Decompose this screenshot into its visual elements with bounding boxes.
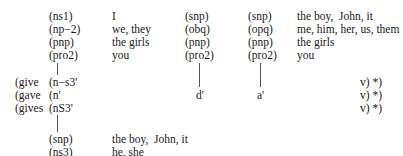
code-pnp: (pnp) [49,36,74,48]
right-code-snp: (snp) [248,10,272,22]
tail-gave: v) *) [360,89,382,101]
connector-line-d [199,63,200,87]
code-np-2: (np−2) [49,23,80,35]
right-words-opq: me, him, her, us, them [297,23,399,35]
connector-line-a [260,63,261,87]
mid-code-obq: (obq) [185,23,210,35]
code-pro2: (pro2) [49,49,78,61]
verb-code-gives: (nS3' [49,102,73,114]
label-a: a' [257,89,264,101]
verb-give: (give [15,76,39,88]
words-pro2: you [112,49,129,61]
b2-words-snp: the boy, John, it [112,133,188,145]
label-d: d' [196,89,204,101]
right-words-pnp: the girls [297,36,334,48]
verb-code-give: (n−s3' [49,76,77,88]
verb-code-gave: (n' [49,89,61,101]
tail-give: v) *) [360,76,382,88]
tail-gives: v) *) [360,102,382,114]
right-code-pnp: (pnp) [248,36,273,48]
connector-line-left [57,63,58,75]
words-ns1: I [112,10,116,22]
mid-code-snp: (snp) [185,10,209,22]
b2-code-snp: (snp) [49,133,73,145]
mid-code-pnp: (pnp) [185,36,210,48]
right-words-snp: the boy, John, it [297,10,373,22]
verb-gives: (gives [15,102,43,114]
mid-code-pro2: (pro2) [185,49,214,61]
right-code-pro2: (pro2) [248,49,277,61]
verb-gave: (gave [15,89,41,101]
right-code-opq: (opq) [248,23,273,35]
b2-code-ns3: (ns3) [49,146,73,156]
b2-words-ns3: he, she [112,146,144,156]
connector-line-bottom [57,115,58,132]
words-pnp: the girls [112,36,149,48]
words-np-2: we, they [112,23,151,35]
right-words-pro2: you [297,49,314,61]
code-ns1: (ns1) [49,10,73,22]
